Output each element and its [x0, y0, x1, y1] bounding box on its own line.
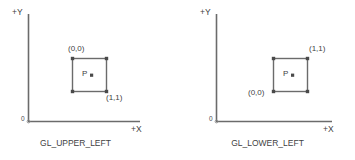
diagram-gl-lower-left: +Y +X 0 (1,1) (0,0) P GL_LOWER_LEFT	[178, 0, 355, 160]
coordinate-origin-figure: +Y +X 0 (0,0) (1,1) P GL_UPPER_LEFT	[0, 0, 355, 160]
point-p-dot	[291, 74, 294, 77]
point-p-label: P	[82, 69, 87, 78]
origin-label: 0	[209, 115, 213, 122]
axes-and-rectangle-lower-left	[178, 0, 355, 160]
x-axis-label: +X	[323, 124, 334, 134]
corner-dot-top-right	[105, 57, 108, 60]
rectangle-outline	[73, 59, 107, 92]
diagram-caption-lower-left: GL_LOWER_LEFT	[192, 138, 343, 148]
y-axis-label: +Y	[200, 7, 211, 17]
diagram-caption-upper-left: GL_UPPER_LEFT	[0, 138, 151, 148]
corner-dot-bottom-right	[306, 90, 309, 93]
corner-dot-bottom-left	[71, 90, 74, 93]
corner-dot-bottom-left	[272, 90, 275, 93]
axes-and-rectangle-upper-left	[0, 0, 177, 160]
corner-dot-top-right	[306, 57, 309, 60]
rectangle-outline	[274, 59, 308, 92]
rect-label-top: (0,0)	[68, 44, 84, 53]
rect-label-top: (1,1)	[309, 44, 325, 53]
point-p-dot	[90, 74, 93, 77]
x-axis-label: +X	[131, 124, 142, 134]
origin-label: 0	[21, 115, 25, 122]
corner-dot-top-left	[71, 57, 74, 60]
diagram-gl-upper-left: +Y +X 0 (0,0) (1,1) P GL_UPPER_LEFT	[0, 0, 177, 160]
corner-dot-top-left	[272, 57, 275, 60]
point-p-label: P	[283, 69, 288, 78]
rect-label-bottom: (0,0)	[248, 88, 264, 97]
y-axis-label: +Y	[12, 7, 23, 17]
rect-label-bottom: (1,1)	[106, 93, 122, 102]
